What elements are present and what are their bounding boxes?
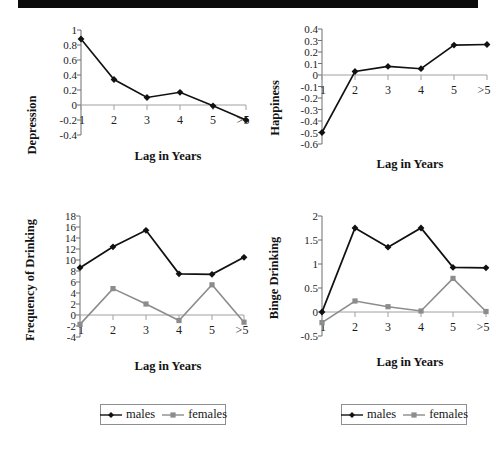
x-axis-title-depression: Lag in Years: [135, 149, 202, 163]
figure-panel-grid: Depression 1 0.8 0.6 0.4 0.2 0 -0.2 -0.4: [0, 0, 497, 450]
x-axis-title-binge-drinking: Lag in Years: [377, 355, 444, 369]
y-axis-title-frequency-of-drinking: Frequency of Drinking: [23, 218, 37, 341]
x-tick: 1: [79, 113, 85, 127]
legend-entry-males: males: [340, 408, 396, 421]
x-tick-labels: 1 2 3 4 5 >5: [79, 113, 249, 127]
y-tick: 0: [313, 306, 319, 318]
y-axis-title-happiness: Happiness: [268, 80, 282, 136]
x-tick: 2: [110, 323, 116, 337]
y-tick: 1.5: [304, 234, 318, 246]
y-tick: -0.2: [301, 92, 318, 104]
y-tick: 0.8: [63, 39, 77, 51]
y-tick: 0.3: [304, 35, 318, 47]
legend-marker-males-icon: [99, 410, 123, 420]
chart-frequency-of-drinking: Frequency of Drinking 18 16 14 12 10 8 6…: [18, 208, 250, 398]
x-tick: >5: [478, 83, 491, 97]
y-tick-labels: 18 16 14 12 10 8 6 4 2 0 -2 -4: [65, 210, 77, 343]
x-tick: 4: [177, 113, 183, 127]
y-axis-title-binge-drinking: Binge Drinking: [267, 236, 281, 319]
x-tick: 5: [451, 83, 457, 97]
series-line-females: [80, 285, 244, 325]
y-tick: 2: [313, 210, 319, 222]
y-tick-labels: 0.4 0.3 0.2 0.1 0 -0.1 -0.2 -0.3 -0.4 -0…: [301, 23, 319, 150]
legend-label-females: females: [188, 408, 227, 421]
x-tick: 2: [352, 320, 358, 334]
legend-entry-females: females: [402, 408, 468, 421]
y-tick: -0.4: [60, 129, 78, 141]
series-markers-females: [77, 282, 246, 327]
x-tick: 5: [209, 323, 215, 337]
y-tick: -0.3: [301, 104, 319, 116]
legend-frequency-of-drinking: males females: [100, 404, 226, 425]
y-tick-labels: 2 1.5 1 0.5 0 -0.5: [301, 210, 319, 342]
x-axis-title-frequency-of-drinking: Lag in Years: [135, 359, 202, 373]
y-tick: -0.2: [60, 114, 77, 126]
x-tick: 1: [320, 83, 326, 97]
x-tick: 3: [385, 320, 391, 334]
x-tick-labels: 1 2 3 4 5 >5: [78, 323, 248, 337]
series-line-males: [81, 39, 246, 120]
legend-label-males: males: [126, 408, 155, 421]
chart-binge-drinking-svg: Binge Drinking 2 1.5 1 0.5 0 -0.5: [262, 208, 494, 398]
x-tick: 5: [450, 320, 456, 334]
chart-happiness-svg: Happiness 0.4 0.3 0.2 0.1 0 -0.1 -0.2 -0…: [262, 20, 494, 200]
legend-label-females: females: [429, 408, 468, 421]
y-tick: -0.6: [301, 138, 319, 150]
y-tick: 0.6: [63, 54, 77, 66]
chart-binge-drinking: Binge Drinking 2 1.5 1 0.5 0 -0.5: [262, 208, 494, 398]
y-tick: 0.4: [304, 23, 318, 35]
series-line-males: [322, 228, 486, 312]
chart-depression: Depression 1 0.8 0.6 0.4 0.2 0 -0.2 -0.4: [18, 20, 250, 200]
y-tick: 1: [72, 24, 78, 36]
legend-marker-males-icon: [340, 410, 364, 420]
scan-artifact-black-bar: [18, 0, 478, 8]
x-tick: 3: [385, 83, 391, 97]
y-tick: 0.2: [63, 84, 77, 96]
legend-marker-females-icon: [161, 410, 185, 420]
x-tick: 5: [210, 113, 216, 127]
x-tick: 4: [418, 320, 424, 334]
y-tick: 0.5: [304, 282, 318, 294]
y-tick: 1: [313, 258, 319, 270]
x-tick: 4: [418, 83, 424, 97]
y-tick: 0.2: [304, 46, 318, 58]
x-tick-labels: 1 2 3 4 5 >5: [320, 320, 489, 334]
legend-marker-females-icon: [402, 410, 426, 420]
y-tick: 0: [313, 69, 319, 81]
chart-frequency-of-drinking-svg: Frequency of Drinking 18 16 14 12 10 8 6…: [18, 208, 250, 398]
series-line-males: [80, 230, 244, 274]
x-tick: 4: [176, 323, 182, 337]
legend-label-males: males: [367, 408, 396, 421]
y-tick: -0.5: [301, 330, 319, 342]
x-tick: 3: [143, 323, 149, 337]
x-tick: >5: [477, 320, 490, 334]
y-axis-title-depression: Depression: [25, 96, 39, 155]
y-tick: -0.5: [301, 127, 319, 139]
y-tick: -4: [67, 331, 77, 343]
x-tick: 3: [144, 113, 150, 127]
y-tick: 0.1: [304, 58, 318, 70]
legend-entry-males: males: [99, 408, 155, 421]
y-tick: 0: [72, 99, 78, 111]
series-line-females: [322, 278, 486, 322]
series-line-males: [322, 45, 487, 133]
legend-binge-drinking: males females: [341, 404, 467, 425]
x-tick: 2: [111, 113, 117, 127]
series-markers-males: [319, 41, 491, 136]
x-tick: 2: [352, 83, 358, 97]
legend-entry-females: females: [161, 408, 227, 421]
x-tick: >5: [236, 323, 249, 337]
y-tick: 0.4: [63, 69, 77, 81]
y-tick-labels: 1 0.8 0.6 0.4 0.2 0 -0.2 -0.4: [60, 24, 78, 141]
series-markers-females: [319, 276, 488, 325]
y-tick: -0.4: [301, 115, 319, 127]
chart-happiness: Happiness 0.4 0.3 0.2 0.1 0 -0.1 -0.2 -0…: [262, 20, 494, 200]
y-tick: -0.1: [301, 81, 318, 93]
x-axis-title-happiness: Lag in Years: [377, 157, 444, 171]
chart-depression-svg: Depression 1 0.8 0.6 0.4 0.2 0 -0.2 -0.4: [18, 20, 250, 200]
